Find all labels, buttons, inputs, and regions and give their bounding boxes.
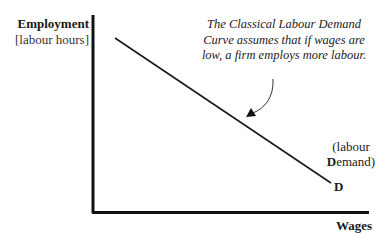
y-axis-title: Employment	[0, 16, 89, 31]
curve-description-rest: emand)	[336, 154, 375, 169]
curve-description: (labour Demand)	[320, 139, 382, 169]
y-axis-unit: [labour hours]	[0, 32, 89, 47]
annotation-arrow	[253, 79, 273, 113]
curve-description-open: (labour	[332, 139, 370, 154]
x-axis-title: Wages	[326, 218, 382, 234]
curve-description-bold: D	[327, 154, 336, 169]
annotation-text: The Classical Labour Demand Curve assume…	[196, 17, 372, 64]
curve-label: D	[334, 179, 343, 195]
